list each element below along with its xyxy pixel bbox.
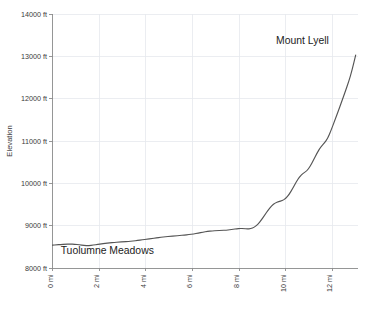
axis-layer <box>49 14 358 271</box>
y-tick-label-0: 8000 ft <box>25 264 47 273</box>
x-tick-label-1: 2 mi <box>92 274 101 288</box>
x-tick-label-3: 6 mi <box>185 274 194 288</box>
y-tick-label-2: 10000 ft <box>21 179 47 188</box>
x-axis-tick-labels: 0 mi2 mi4 mi6 mi8 mi10 mi12 mi <box>46 274 335 292</box>
chart-annotations: Tuolumne MeadowsMount Lyell <box>61 35 329 255</box>
x-tickmarks <box>53 268 333 271</box>
x-tick-label-6: 12 mi <box>325 274 334 292</box>
y-gridlines <box>53 14 359 268</box>
y-tickmarks <box>49 14 52 268</box>
y-tick-label-5: 13000 ft <box>21 52 47 61</box>
elevation-profile-line <box>53 55 356 246</box>
y-tick-label-6: 14000 ft <box>21 10 47 19</box>
chart-canvas: 0 mi2 mi4 mi6 mi8 mi10 mi12 mi 8000 ft90… <box>0 0 367 314</box>
x-tick-label-4: 8 mi <box>232 274 241 288</box>
start-annotation: Tuolumne Meadows <box>61 245 154 256</box>
peak-annotation: Mount Lyell <box>276 35 329 46</box>
elevation-chart: 0 mi2 mi4 mi6 mi8 mi10 mi12 mi 8000 ft90… <box>0 0 367 314</box>
x-tick-label-2: 4 mi <box>139 274 148 288</box>
y-tick-label-4: 12000 ft <box>21 94 47 103</box>
x-tick-label-5: 10 mi <box>279 274 288 292</box>
x-tick-label-0: 0 mi <box>46 274 55 288</box>
y-axis-tick-labels: 8000 ft9000 ft10000 ft11000 ft12000 ft13… <box>21 10 47 273</box>
y-tick-label-1: 9000 ft <box>25 221 47 230</box>
y-tick-label-3: 11000 ft <box>22 137 47 146</box>
y-axis-title: Elevation <box>5 125 14 156</box>
grid-layer <box>53 14 359 268</box>
series-layer <box>53 55 356 246</box>
